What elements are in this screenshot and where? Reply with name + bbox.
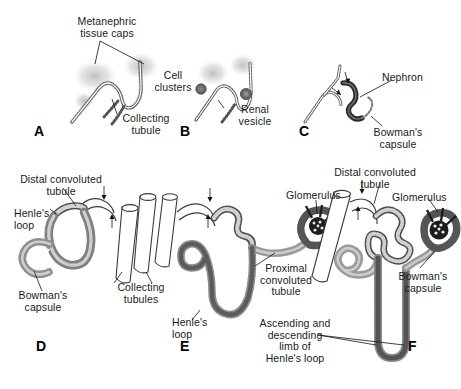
panel-letter-e: E — [180, 338, 190, 354]
nephron-development-figure: Metanephric tissue caps Collecting tubul… — [0, 0, 461, 389]
label-proximal-convoluted-tubule-e: Proximal convoluted tubule — [252, 263, 320, 298]
label-collecting-tubule: Collecting tubule — [108, 113, 184, 136]
panel-d-artwork — [22, 186, 156, 291]
label-bowmans-capsule-c: Bowman's capsule — [366, 127, 430, 150]
label-henles-loop-e: Henle's loop — [172, 317, 207, 340]
label-glomerulus-e: Glomerulus — [286, 190, 341, 202]
label-cell-clusters: Cell clusters — [146, 70, 200, 93]
label-nephron: Nephron — [382, 72, 423, 84]
label-distal-convoluted-tubule-d: Distal convoluted tubule — [8, 174, 114, 197]
label-glomerulus-f: Glomerulus — [392, 192, 447, 204]
label-ascending-descending-limb: Ascending and descending limb of Henle's… — [254, 318, 336, 364]
label-distal-convoluted-tubule-f: Distal convoluted tubule — [322, 167, 428, 190]
panel-letter-b: B — [180, 123, 190, 139]
panel-letter-f: F — [408, 338, 417, 354]
panel-letter-a: A — [34, 123, 44, 139]
label-bowmans-capsule-d: Bowman's capsule — [10, 290, 76, 313]
label-collecting-tubules-d: Collecting tubules — [108, 282, 174, 305]
panel-letter-d: D — [36, 338, 46, 354]
label-metanephric-tissue-caps: Metanephric tissue caps — [52, 16, 162, 39]
label-henles-loop-d: Henle's loop — [14, 208, 49, 231]
panel-letter-c: C — [299, 123, 309, 139]
label-renal-vesicle: Renal vesicle — [228, 104, 282, 127]
panel-c-artwork — [305, 66, 392, 126]
panel-e-artwork — [155, 188, 337, 320]
label-bowmans-capsule-f: Bowman's capsule — [390, 271, 456, 294]
